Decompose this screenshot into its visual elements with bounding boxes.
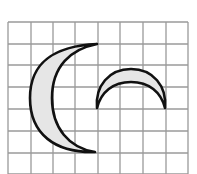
large-crescent-shape: [30, 44, 97, 152]
small-crescent-shape: [97, 69, 165, 108]
grid-diagram: [0, 0, 197, 174]
